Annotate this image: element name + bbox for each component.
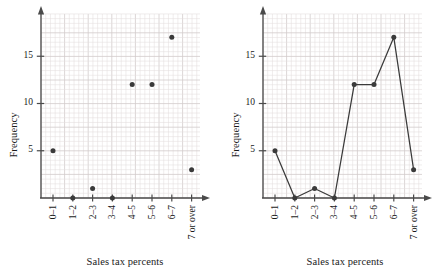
- y-tick-label: 5: [233, 144, 255, 154]
- x-tick-label: 2–3: [310, 205, 320, 265]
- y-tick-label: 10: [233, 97, 255, 107]
- x-tick-label: 6–7: [389, 205, 399, 265]
- x-tick-label: 6–7: [167, 205, 177, 265]
- y-tick-label: 15: [11, 50, 33, 60]
- line-graph-panel: Sales tax percents Frequency 510150–11–2…: [222, 0, 444, 272]
- y-tick-label: 15: [233, 50, 255, 60]
- y-tick-label: 5: [11, 144, 33, 154]
- x-tick-label: 7 or over: [187, 205, 197, 265]
- x-tick-label: 1–2: [290, 205, 300, 265]
- x-tick-label: 3–4: [329, 205, 339, 265]
- x-tick-label: 1–2: [68, 205, 78, 265]
- x-axis-title: Sales tax percents: [0, 256, 236, 267]
- x-tick-label: 4–5: [349, 205, 359, 265]
- y-tick-label: 10: [11, 97, 33, 107]
- x-tick-label: 3–4: [107, 205, 117, 265]
- x-tick-label: 2–3: [88, 205, 98, 265]
- x-tick-label: 0–1: [48, 205, 58, 265]
- x-tick-label: 5–6: [147, 205, 157, 265]
- x-tick-label: 0–1: [270, 205, 280, 265]
- x-tick-label: 5–6: [369, 205, 379, 265]
- two-panel-figure: Sales tax percents Frequency 510150–11–2…: [0, 0, 444, 272]
- x-tick-label: 4–5: [127, 205, 137, 265]
- scatter-plot-panel: Sales tax percents Frequency 510150–11–2…: [0, 0, 222, 272]
- x-tick-label: 7 or over: [409, 205, 419, 265]
